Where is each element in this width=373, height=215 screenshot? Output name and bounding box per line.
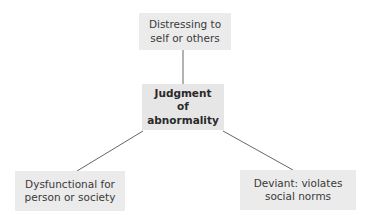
node-center-label: Judgment of abnormality [147,87,219,128]
node-dysfunctional: Dysfunctional for person or society [15,171,125,211]
node-distressing-label: Distressing to self or others [149,18,221,45]
node-judgment-of-abnormality: Judgment of abnormality [142,84,224,130]
abnormality-diagram: Distressing to self or others Judgment o… [0,0,373,215]
node-deviant: Deviant: violates social norms [240,170,356,210]
node-deviant-label: Deviant: violates social norms [254,177,343,204]
edge-center-right [223,131,293,170]
node-dysfunctional-label: Dysfunctional for person or society [25,178,116,205]
edge-center-left [77,131,143,171]
node-distressing: Distressing to self or others [139,13,231,50]
